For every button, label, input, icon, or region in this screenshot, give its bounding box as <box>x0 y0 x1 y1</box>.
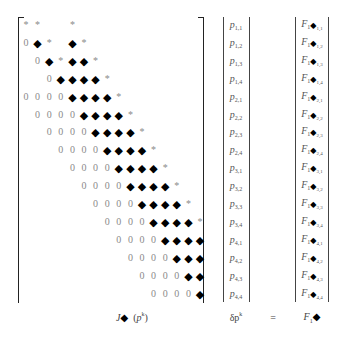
paren-close: ) <box>145 312 148 323</box>
matrix-zero-entry: 0 <box>20 38 32 48</box>
matrix-star-entry: * <box>32 20 44 30</box>
matrix-nonzero-diamond: ◆ <box>90 109 102 120</box>
dp-entry: p4,4 <box>230 288 243 299</box>
matrix-nonzero-diamond: ◆ <box>90 73 102 84</box>
matrix-zero-entry: 0 <box>78 163 90 173</box>
matrix-zero-entry: 0 <box>148 235 160 245</box>
matrix-zero-entry: 0 <box>78 145 90 155</box>
matrix-nonzero-diamond: ◆ <box>148 216 160 227</box>
f-entry: F1◆4,3 <box>301 270 323 282</box>
matrix-zero-entry: 0 <box>113 181 125 191</box>
matrix-nonzero-diamond: ◆ <box>90 91 102 102</box>
matrix-nonzero-diamond: ◆ <box>66 37 78 48</box>
matrix-zero-entry: 0 <box>43 110 55 120</box>
matrix-star-entry: * <box>66 20 78 30</box>
matrix-zero-entry: 0 <box>182 289 194 299</box>
matrix-nonzero-diamond: ◆ <box>194 252 206 263</box>
f-entry: F1◆2,2 <box>301 109 323 121</box>
matrix-zero-entry: 0 <box>43 92 55 102</box>
f-entry: F1◆4,4 <box>301 288 323 300</box>
dp-entry: p2,2 <box>230 109 243 120</box>
matrix-nonzero-diamond: ◆ <box>182 234 194 245</box>
delta-p-text: δp <box>230 312 240 323</box>
matrix-star-entry: * <box>101 74 113 84</box>
matrix-nonzero-diamond: ◆ <box>136 163 148 174</box>
matrix-equation: ***0◆*◆*0◆*◆◆*0◆◆◆◆*0000◆◆◆◆*0000◆◆◆◆*00… <box>0 0 343 337</box>
matrix-zero-entry: 0 <box>136 271 148 281</box>
matrix-zero-entry: 0 <box>90 145 102 155</box>
dp-entry: p1,1 <box>230 20 243 31</box>
matrix-zero-entry: 0 <box>66 110 78 120</box>
matrix-zero-entry: 0 <box>124 235 136 245</box>
matrix-nonzero-diamond: ◆ <box>136 181 148 192</box>
f-entry: F1◆4,1 <box>301 234 323 246</box>
dp-entry: p3,4 <box>230 216 243 227</box>
matrix-zero-entry: 0 <box>148 253 160 263</box>
matrix-zero-entry: 0 <box>90 181 102 191</box>
matrix-nonzero-diamond: ◆ <box>101 109 113 120</box>
matrix-zero-entry: 0 <box>43 74 55 84</box>
matrix-star-entry: * <box>194 217 206 227</box>
matrix-star-entry: * <box>55 56 67 66</box>
matrix-zero-entry: 0 <box>20 92 32 102</box>
f-entry: F1◆1,4 <box>301 73 323 85</box>
matrix-nonzero-diamond: ◆ <box>194 288 206 299</box>
matrix-nonzero-diamond: ◆ <box>113 145 125 156</box>
matrix-zero-entry: 0 <box>101 163 113 173</box>
f-entry: F1◆1,3 <box>301 55 323 67</box>
matrix-nonzero-diamond: ◆ <box>171 252 183 263</box>
dp-entry: p1,4 <box>230 73 243 84</box>
matrix-zero-entry: 0 <box>101 217 113 227</box>
matrix-zero-entry: 0 <box>101 199 113 209</box>
matrix-nonzero-diamond: ◆ <box>78 55 90 66</box>
equals-sign: = <box>270 312 276 323</box>
matrix-nonzero-diamond: ◆ <box>101 127 113 138</box>
matrix-zero-entry: 0 <box>78 127 90 137</box>
dp-entry: p1,2 <box>230 37 243 48</box>
f-entry: F1◆2,1 <box>301 91 323 103</box>
jacobian-label: J◆ (pk) <box>116 311 148 322</box>
matrix-zero-entry: 0 <box>124 217 136 227</box>
delta-p-sup: k <box>239 311 242 317</box>
f-entry: F1◆3,1 <box>301 162 323 174</box>
matrix-nonzero-diamond: ◆ <box>55 73 67 84</box>
delta-p-label: δpk <box>230 311 243 322</box>
matrix-nonzero-diamond: ◆ <box>90 127 102 138</box>
matrix-zero-entry: 0 <box>32 92 44 102</box>
dp-entry: p1,3 <box>230 55 243 66</box>
f-vector-right-bar <box>328 17 329 302</box>
matrix-nonzero-diamond: ◆ <box>124 127 136 138</box>
f-entry: F1◆4,2 <box>301 252 323 264</box>
matrix-zero-entry: 0 <box>90 199 102 209</box>
dp-entry: p2,4 <box>230 145 243 156</box>
matrix-nonzero-diamond: ◆ <box>66 55 78 66</box>
matrix-nonzero-diamond: ◆ <box>113 127 125 138</box>
matrix-nonzero-diamond: ◆ <box>124 181 136 192</box>
matrix-star-entry: * <box>159 163 171 173</box>
matrix-zero-entry: 0 <box>159 271 171 281</box>
dp-entry: p4,2 <box>230 252 243 263</box>
dp-vector-left-bar <box>223 17 224 302</box>
matrix-nonzero-diamond: ◆ <box>113 163 125 174</box>
matrix-zero-entry: 0 <box>55 145 67 155</box>
diamond-icon: ◆ <box>121 312 129 323</box>
matrix-zero-entry: 0 <box>55 127 67 137</box>
f-entry: F1◆1,2 <box>301 37 323 49</box>
dp-entry: p3,3 <box>230 199 243 210</box>
f-entry: F1◆1,1 <box>301 19 323 31</box>
matrix-nonzero-diamond: ◆ <box>182 270 194 281</box>
f-entry: F1◆3,3 <box>301 198 323 210</box>
f-entry: F1◆3,4 <box>301 216 323 228</box>
matrix-zero-entry: 0 <box>159 253 171 263</box>
matrix-zero-entry: 0 <box>171 289 183 299</box>
matrix-nonzero-diamond: ◆ <box>66 73 78 84</box>
matrix-zero-entry: 0 <box>136 235 148 245</box>
matrix-nonzero-diamond: ◆ <box>148 163 160 174</box>
f-vector-left-bar <box>295 17 296 302</box>
matrix-nonzero-diamond: ◆ <box>194 270 206 281</box>
dp-entry: p2,1 <box>230 91 243 102</box>
matrix-zero-entry: 0 <box>159 289 171 299</box>
matrix-star-entry: * <box>124 110 136 120</box>
matrix-star-entry: * <box>171 181 183 191</box>
matrix-star-entry: * <box>113 92 125 102</box>
